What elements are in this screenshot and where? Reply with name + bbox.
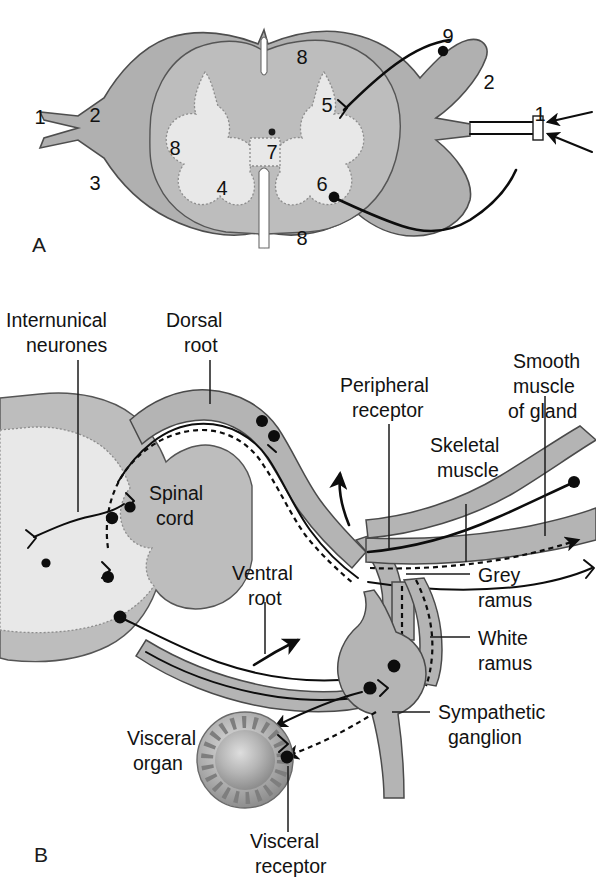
label-spinal-cord-line1: Spinal bbox=[149, 482, 203, 504]
panel-a-ventral-fissure bbox=[259, 168, 269, 248]
label-number: 5 bbox=[321, 94, 332, 116]
label-number: 8 bbox=[296, 46, 307, 68]
label-number: 1 bbox=[534, 103, 545, 125]
label-ventral-root-line2: root bbox=[248, 587, 282, 609]
label-grey-ramus-line1: Grey bbox=[478, 564, 521, 586]
label-number: 3 bbox=[89, 172, 100, 194]
label-skeletal-muscle-line1: Skeletal bbox=[430, 434, 499, 456]
panel-a-group: 1 2 3 8 8 8 4 7 5 6 9 2 1 A bbox=[32, 25, 592, 256]
panel-b-free-dot bbox=[41, 558, 50, 567]
panel-b-skeletal-muscle-terminal bbox=[568, 476, 580, 488]
label-spinal-cord-line2: cord bbox=[156, 507, 194, 529]
label-visceral-organ-line2: organ bbox=[133, 752, 183, 774]
label-dorsal-root-line2: root bbox=[184, 334, 218, 356]
label-skeletal-muscle-line2: muscle bbox=[437, 459, 499, 481]
label-visceral-receptor-line1: Visceral bbox=[250, 830, 319, 852]
panel-a-letter: A bbox=[32, 233, 46, 256]
panel-b-ganglion-soma-2 bbox=[363, 681, 376, 694]
label-visceral-organ-line1: Visceral bbox=[127, 727, 196, 749]
label-number: 2 bbox=[483, 71, 494, 93]
label-smooth-muscle-line2: muscle bbox=[513, 375, 575, 397]
panel-a-spinal-nerve-trunk bbox=[470, 122, 540, 134]
visceral-organ-icon bbox=[197, 712, 293, 808]
label-number: 8 bbox=[169, 137, 180, 159]
label-peripheral-receptor-line1: Peripheral bbox=[340, 374, 429, 396]
panel-b-afferent-arrow bbox=[339, 474, 349, 525]
label-internuncial-neurones-line1: Internunical bbox=[6, 309, 107, 331]
label-dorsal-root-line1: Dorsal bbox=[166, 309, 222, 331]
panel-b-drg-soma-1 bbox=[256, 415, 268, 427]
panel-b-ganglion-soma-1 bbox=[388, 660, 401, 673]
panel-a-dorsal-sulcus bbox=[261, 37, 267, 75]
label-sympathetic-ganglion-line1: Sympathetic bbox=[438, 701, 546, 723]
panel-b-visceral-afferent-dashed bbox=[286, 712, 376, 756]
label-number: 4 bbox=[216, 177, 227, 199]
panel-a-soma-9 bbox=[438, 46, 448, 56]
panel-b-visceral-receptor-dot bbox=[281, 751, 294, 764]
label-number: 8 bbox=[296, 227, 307, 249]
label-visceral-receptor-line2: receptor bbox=[255, 855, 327, 877]
panel-b-letter: B bbox=[34, 843, 48, 866]
panel-b-group: Internunical neurones Dorsal root Spinal… bbox=[0, 309, 596, 877]
panel-b-drg-soma-2 bbox=[268, 430, 280, 442]
figure-root: 1 2 3 8 8 8 4 7 5 6 9 2 1 A bbox=[0, 0, 596, 883]
panel-a-soma-6 bbox=[329, 192, 340, 203]
label-internuncial-neurones-line2: neurones bbox=[26, 334, 108, 356]
label-white-ramus-line1: White bbox=[478, 627, 528, 649]
label-sympathetic-ganglion-line2: ganglion bbox=[448, 726, 522, 748]
label-number: 9 bbox=[442, 25, 453, 47]
label-number: 6 bbox=[316, 173, 327, 195]
label-number: 7 bbox=[266, 141, 277, 163]
label-number: 2 bbox=[89, 104, 100, 126]
panel-a-arrow-out bbox=[548, 134, 592, 152]
label-peripheral-receptor-line2: receptor bbox=[352, 399, 424, 421]
anatomical-figure: 1 2 3 8 8 8 4 7 5 6 9 2 1 A bbox=[0, 0, 596, 883]
panel-b-efferent-arrow bbox=[254, 640, 298, 665]
panel-b-internuncial-soma-1 bbox=[106, 512, 118, 524]
label-grey-ramus-line2: ramus bbox=[478, 589, 532, 611]
label-smooth-muscle-line3: of gland bbox=[508, 400, 577, 422]
label-number: 1 bbox=[34, 106, 45, 128]
panel-a-central-canal bbox=[269, 129, 276, 136]
label-ventral-root-line1: Ventral bbox=[232, 562, 293, 584]
panel-a-arrow-in bbox=[548, 112, 592, 122]
label-white-ramus-line2: ramus bbox=[478, 652, 532, 674]
label-smooth-muscle-line1: Smooth bbox=[513, 350, 580, 372]
